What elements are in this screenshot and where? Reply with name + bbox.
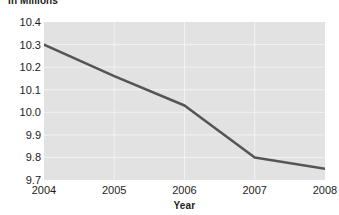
y-axis-tick-label: 9.8 bbox=[3, 152, 41, 163]
y-axis-tick-label: 10.4 bbox=[3, 17, 41, 28]
x-axis-tick-label: 2006 bbox=[162, 185, 208, 196]
x-axis-tick-label: 2008 bbox=[302, 185, 339, 196]
x-axis-title: Year bbox=[0, 200, 339, 211]
y-axis: 10.410.310.210.110.09.99.89.7 bbox=[0, 0, 41, 215]
y-axis-tick-label: 10.0 bbox=[3, 107, 41, 118]
y-axis-tick-label: 10.3 bbox=[3, 40, 41, 51]
plot-svg bbox=[44, 22, 325, 180]
gridlines bbox=[44, 22, 325, 180]
y-axis-tick-label: 9.9 bbox=[3, 130, 41, 141]
plot-area bbox=[44, 22, 325, 180]
x-axis: 20042005200620072008 bbox=[0, 185, 339, 201]
line-chart: In Millions 10.410.310.210.110.09.99.89.… bbox=[0, 0, 339, 215]
x-axis-tick-label: 2004 bbox=[21, 185, 67, 196]
x-axis-tick-label: 2007 bbox=[232, 185, 278, 196]
y-axis-tick-label: 10.2 bbox=[3, 62, 41, 73]
x-axis-tick-label: 2005 bbox=[91, 185, 137, 196]
y-axis-tick-label: 10.1 bbox=[3, 85, 41, 96]
